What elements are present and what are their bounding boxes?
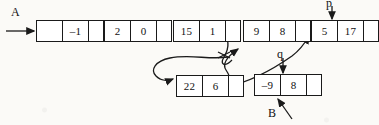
node-22-6-cell-1: 22 (177, 76, 203, 96)
node-15-1-cell-1: 15 (174, 21, 200, 41)
node-neg9-8-cell-1: –9 (255, 75, 281, 95)
node-15-1-pointer-cell (226, 21, 240, 41)
node-2-0-pointer-cell (157, 21, 171, 41)
node-2-0-cell-2: 0 (131, 21, 157, 41)
node-22-6-cell-2: 6 (203, 76, 229, 96)
node-2-0-cell-1: 2 (105, 21, 131, 41)
arrow-b-to-neg9-8 (278, 99, 292, 119)
list-head-label-A: A (11, 5, 20, 20)
node-15-1-cell-2: 1 (200, 21, 226, 41)
node-neg9-8[interactable]: –9 8 (254, 74, 322, 96)
node-5-17-pointer-cell (364, 21, 378, 41)
node-neg9-8-cell-2: 8 (281, 75, 307, 95)
node-head-a-pointer-cell (89, 21, 103, 41)
node-22-6-pointer-cell (229, 76, 243, 96)
list-head-label-B: B (268, 106, 276, 121)
node-5-17-cell-1: 5 (312, 21, 338, 41)
node-head-a[interactable]: –1 (36, 20, 104, 42)
node-9-8-pointer-cell (296, 21, 310, 41)
node-head-a-cell-2: –1 (63, 21, 89, 41)
node-head-a-cell-1 (37, 21, 63, 41)
node-9-8-cell-2: 8 (270, 21, 296, 41)
pointer-label-q: q (277, 47, 283, 62)
pointer-label-p: p (326, 0, 332, 11)
node-15-1[interactable]: 15 1 (173, 20, 241, 42)
node-22-6[interactable]: 22 6 (176, 75, 244, 97)
node-2-0[interactable]: 2 0 (104, 20, 172, 42)
node-5-17[interactable]: 5 17 (311, 20, 379, 42)
node-neg9-8-pointer-cell (307, 75, 321, 95)
node-5-17-cell-2: 17 (338, 21, 364, 41)
node-9-8-cell-1: 9 (244, 21, 270, 41)
node-9-8[interactable]: 9 8 (243, 20, 311, 42)
